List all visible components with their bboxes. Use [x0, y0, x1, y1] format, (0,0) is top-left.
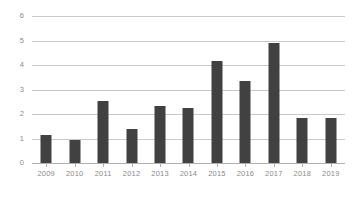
x-axis-tick	[189, 164, 190, 167]
bar-slot	[60, 16, 88, 163]
bar-slot	[89, 16, 117, 163]
bar-slot	[174, 16, 202, 163]
y-axis-tick-label: 5	[4, 37, 24, 45]
y-axis-tick-label: 2	[4, 110, 24, 118]
bar-2016[interactable]	[240, 81, 251, 163]
y-axis-tick-label: 1	[4, 135, 24, 143]
x-axis-tick	[217, 164, 218, 167]
bar-2018[interactable]	[297, 118, 308, 163]
bar-2019[interactable]	[325, 118, 336, 163]
bar-2011[interactable]	[98, 101, 109, 163]
bar-slot	[231, 16, 259, 163]
x-axis-tick	[274, 164, 275, 167]
bar-chart: 0123456 20092010201120122013201420152016…	[0, 0, 363, 198]
x-axis-tick	[245, 164, 246, 167]
x-axis-tick	[46, 164, 47, 167]
bar-slot	[317, 16, 345, 163]
bars-group	[32, 16, 345, 163]
bar-slot	[260, 16, 288, 163]
x-axis-tick	[132, 164, 133, 167]
bar-2015[interactable]	[211, 61, 222, 163]
y-axis-tick-label: 4	[4, 61, 24, 69]
bar-slot	[288, 16, 316, 163]
bar-2012[interactable]	[126, 129, 137, 163]
y-axis-tick-label: 3	[4, 86, 24, 94]
x-axis-tick	[331, 164, 332, 167]
bar-2014[interactable]	[183, 108, 194, 163]
x-axis-tick	[302, 164, 303, 167]
bar-2010[interactable]	[69, 140, 80, 163]
bar-slot	[117, 16, 145, 163]
bar-slot	[203, 16, 231, 163]
bar-2017[interactable]	[268, 43, 279, 163]
bar-2009[interactable]	[41, 135, 52, 163]
y-axis-tick-label: 6	[4, 12, 24, 20]
x-axis-tick	[75, 164, 76, 167]
x-axis-tick-label: 2019	[311, 170, 351, 178]
bar-2013[interactable]	[155, 106, 166, 163]
y-axis-tick-label: 0	[4, 159, 24, 167]
x-axis-tick	[160, 164, 161, 167]
bar-slot	[146, 16, 174, 163]
bar-slot	[32, 16, 60, 163]
x-axis-tick	[103, 164, 104, 167]
